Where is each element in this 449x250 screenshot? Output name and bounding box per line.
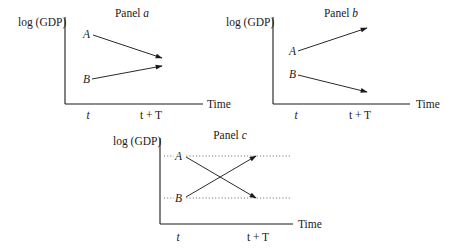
panel-a: Panel a log (GDP) Time t t + T A B (18, 7, 231, 121)
panel-c-title: Panel c (213, 129, 247, 141)
panel-b-point-B-label: B (289, 68, 296, 80)
panel-a-tick-t: t (86, 109, 90, 121)
panel-b-y-axis-label: log (GDP) (226, 16, 274, 29)
panel-b-point-A-label: A (288, 45, 297, 57)
panel-c-point-B-label: B (175, 192, 182, 204)
panel-c-arrow-A (186, 157, 256, 198)
panel-b-x-axis-label: Time (416, 98, 440, 110)
panel-a-arrow-B (92, 66, 162, 79)
panel-c-point-A-label: A (174, 150, 183, 162)
panel-c: Panel c log (GDP) Time t t + T A B (113, 129, 322, 243)
panel-b-arrow-B (298, 75, 367, 92)
panel-a-y-axis-label: log (GDP) (18, 16, 66, 29)
panel-c-y-axis-label: log (GDP) (113, 135, 161, 148)
panel-a-arrow-A (93, 35, 162, 58)
panel-a-point-A-label: A (82, 28, 91, 40)
panel-c-arrow-B (186, 156, 256, 197)
panel-c-tick-t: t (176, 231, 180, 243)
panel-b: Panel b log (GDP) Time t t + T A B (226, 7, 440, 121)
panel-b-title: Panel b (324, 7, 358, 19)
panel-a-title: Panel a (115, 7, 149, 19)
panel-b-tick-t-plus-T: t + T (349, 109, 371, 121)
convergence-diagram: Panel a log (GDP) Time t t + T A B Panel… (0, 0, 449, 250)
panel-a-tick-t-plus-T: t + T (140, 109, 162, 121)
panel-a-x-axis-label: Time (207, 98, 231, 110)
panel-c-tick-t-plus-T: t + T (247, 231, 269, 243)
panel-b-tick-t: t (294, 109, 298, 121)
panel-b-arrow-A (298, 28, 367, 51)
panel-a-point-B-label: B (83, 73, 90, 85)
panel-c-x-axis-label: Time (298, 218, 322, 230)
